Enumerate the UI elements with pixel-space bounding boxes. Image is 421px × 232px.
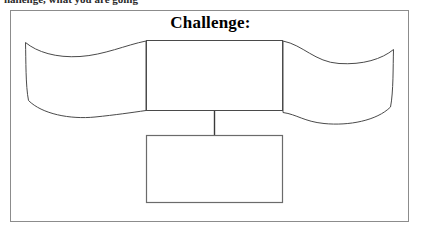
bottom-box-text[interactable] [148,137,281,201]
left-banner-text[interactable] [28,58,143,110]
center-box-text[interactable] [148,42,281,108]
page-title: Challenge: [0,13,421,33]
diagram-frame: Challenge: [0,0,421,232]
right-banner-text[interactable] [287,58,402,110]
